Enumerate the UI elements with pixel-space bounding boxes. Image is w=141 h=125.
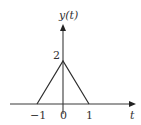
peak-value-label: 2 [53,49,60,62]
y-axis-arrow-icon [60,24,66,31]
x-tick-0: 0 [60,109,67,122]
y-axis-label: y(t) [58,9,78,22]
x-tick-neg1: −1 [30,109,46,122]
x-axis-arrow-icon [129,101,136,107]
x-axis-label: t [130,109,135,122]
triangle-pulse-plot: y(t) t 2 −1 0 1 [0,0,141,125]
x-tick-1: 1 [86,109,93,122]
